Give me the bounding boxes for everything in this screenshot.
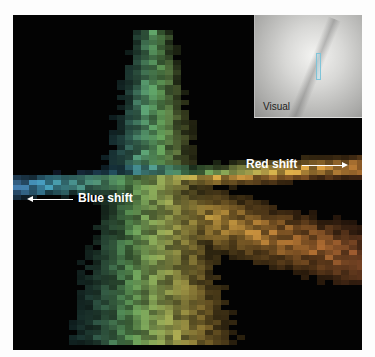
- velocity-map-panel: Visual Red shift Blue shift: [13, 15, 362, 350]
- blue-shift-label: Blue shift: [78, 191, 133, 205]
- visual-inset-image: Visual: [254, 15, 362, 118]
- arrow-left-icon: [27, 196, 33, 202]
- inset-label: Visual: [263, 101, 290, 112]
- dust-lane: [287, 16, 341, 118]
- red-shift-arrow-line: [302, 165, 342, 166]
- arrow-right-icon: [342, 162, 348, 168]
- slit-marker-icon: [316, 53, 321, 80]
- blue-shift-arrow-line: [33, 199, 73, 200]
- red-shift-label: Red shift: [246, 157, 297, 171]
